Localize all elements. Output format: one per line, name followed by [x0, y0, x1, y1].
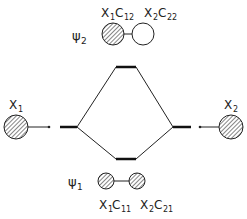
svg-text:C: C — [154, 198, 162, 212]
psi2-coef1-label: X 1 C 12 — [101, 6, 134, 22]
svg-text:X: X — [9, 98, 17, 112]
svg-text:1: 1 — [18, 105, 23, 114]
svg-text:X: X — [144, 6, 152, 20]
svg-text:2: 2 — [233, 105, 238, 114]
svg-text:C: C — [112, 198, 120, 212]
svg-text:ψ: ψ — [72, 28, 81, 43]
psi2-coef2-label: X 2 C 22 — [144, 6, 177, 22]
svg-text:X: X — [140, 198, 148, 212]
svg-text:12: 12 — [124, 13, 134, 22]
svg-text:ψ: ψ — [68, 174, 77, 189]
psi2-hatched-lobe — [102, 23, 124, 45]
svg-text:C: C — [158, 6, 166, 20]
correlation-lines — [77, 67, 173, 159]
svg-text:11: 11 — [121, 205, 131, 214]
svg-text:21: 21 — [163, 205, 173, 214]
svg-text:X: X — [101, 6, 109, 20]
psi1-coef2-label: X 2 C 21 — [140, 198, 173, 214]
psi1-label: ψ 1 — [68, 174, 83, 192]
x1-orbital — [4, 115, 28, 139]
svg-text:22: 22 — [167, 13, 177, 22]
x2-label: X 2 — [224, 98, 238, 114]
psi1-lobe-2 — [129, 173, 145, 189]
psi2-label: ψ 2 — [72, 28, 87, 46]
svg-text:X: X — [224, 98, 232, 112]
svg-text:2: 2 — [81, 36, 87, 46]
x1-label: X 1 — [9, 98, 23, 114]
x2-orbital — [219, 115, 243, 139]
svg-text:C: C — [115, 6, 123, 20]
svg-text:1: 1 — [77, 182, 83, 192]
mo-diagram: ψ 2 X 1 C 12 X 2 C 22 X 1 X 2 — [0, 0, 247, 219]
psi1-lobe-1 — [98, 173, 114, 189]
svg-text:X: X — [99, 198, 107, 212]
psi1-coef1-label: X 1 C 11 — [99, 198, 131, 214]
psi2-open-lobe — [132, 23, 154, 45]
